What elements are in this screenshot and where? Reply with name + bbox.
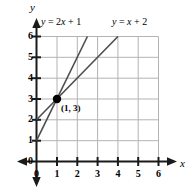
intersection-point-marker <box>53 95 61 103</box>
x-tick-label-2: 2 <box>72 168 83 179</box>
series-label-rhs-0: + 1 <box>66 16 82 27</box>
x-tick-label-5: 5 <box>133 168 144 179</box>
x-tick-label-6: 6 <box>153 168 164 179</box>
x-tick-label-1: 1 <box>52 168 63 179</box>
x-axis-arrow-right-icon <box>167 157 177 165</box>
x-tick-label-4: 4 <box>112 168 123 179</box>
intersection-point-label: (1, 3) <box>61 103 81 113</box>
y-tick-label-2: 2 <box>22 113 33 124</box>
series-label-eq-0: = 2 <box>45 16 61 27</box>
y-tick-label-3: 3 <box>22 93 33 104</box>
y-axis-label: y <box>30 1 35 13</box>
line-y-equals-2x-plus-1 <box>37 37 88 141</box>
x-tick-label-3: 3 <box>92 168 103 179</box>
series-label-y-equals-2x-plus-1: y = 2x + 1 <box>41 16 81 27</box>
y-axis-arrow-up-icon <box>32 18 40 28</box>
origin-label: 0 <box>22 155 33 166</box>
series-label-rhs-1: + 2 <box>132 16 148 27</box>
x-tick-label-0: 0 <box>31 168 42 179</box>
series-label-eq-1: = <box>116 16 127 27</box>
y-tick-label-6: 6 <box>22 30 33 41</box>
y-tick-label-4: 4 <box>22 72 33 83</box>
x-axis-label: x <box>180 157 185 169</box>
y-tick-label-1: 1 <box>22 134 33 145</box>
series-label-y-equals-x-plus-2: y = x + 2 <box>112 16 147 27</box>
coordinate-plane-figure: y x 6 5 4 3 2 1 0 0 1 2 3 4 5 6 y = 2x +… <box>0 0 190 195</box>
y-tick-label-5: 5 <box>22 51 33 62</box>
